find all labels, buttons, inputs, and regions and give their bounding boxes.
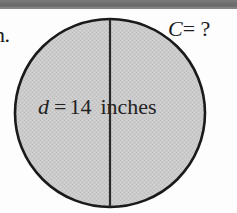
diameter-variable: d	[38, 94, 51, 119]
diameter-equals: =	[51, 94, 69, 119]
circumference-label: C= ?	[168, 18, 210, 40]
worksheet-figure-page: n. C= ? d=14inches	[0, 0, 237, 213]
diameter-number: 14	[69, 94, 91, 119]
circumference-variable: C	[168, 16, 183, 41]
diameter-label: d=14inches	[38, 96, 157, 118]
diameter-unit: inches	[91, 94, 156, 119]
circumference-equals: =	[183, 16, 195, 41]
circumference-value: ?	[201, 16, 211, 41]
